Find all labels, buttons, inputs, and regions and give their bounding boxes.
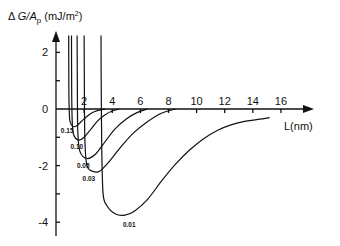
curve-0-01 [101,35,270,215]
curve-label: 0.03 [83,175,96,182]
x-tick-label: 16 [275,95,287,107]
y-axis-arrow-icon [52,31,60,42]
curve-label: 0.01 [123,221,136,228]
curve-0-15 [69,35,106,126]
curve-label: 0.05 [77,162,90,169]
x-tick-label: 8 [165,95,171,107]
x-ticks: 246810121416 [81,95,287,113]
y-tick-label: 0 [42,103,48,115]
x-axis-title: L(nm) [284,120,313,132]
x-tick-label: 10 [190,95,202,107]
y-tick-label: 2 [42,46,48,58]
y-tick-label: -4 [38,216,48,228]
x-axis-arrow-icon [303,105,314,113]
x-tick-label: 4 [109,95,115,107]
curve-label: 0.15 [61,127,74,134]
curves [69,35,270,215]
chart: 246810121416 20-2-4 0.150.100.050.030.01… [0,0,340,246]
y-tick-label: -2 [38,160,48,172]
y-ticks: 20-2-4 [38,46,60,228]
x-tick-label: 12 [219,95,231,107]
curve-label: 0.10 [70,143,83,150]
x-tick-label: 14 [247,95,259,107]
y-axis-title: Δ G/Ap (mJ/m2) [8,10,82,25]
x-tick-label: 6 [137,95,143,107]
